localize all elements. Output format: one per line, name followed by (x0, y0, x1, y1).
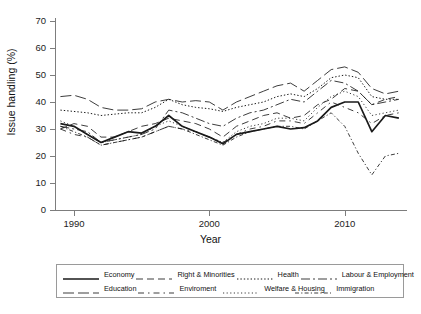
legend-key-swatch (221, 284, 261, 294)
legend-key-swatch (61, 284, 101, 294)
legend-item-economy[interactable]: Economy (61, 268, 134, 282)
series-line-labour-employment (60, 80, 398, 142)
legend-label: Health (275, 271, 299, 279)
legend-label: Enviroment (176, 285, 216, 293)
legend-item-enviroment[interactable]: Enviroment (136, 282, 221, 296)
legend-item-education[interactable]: Education (61, 282, 136, 296)
legend-key-swatch (136, 284, 176, 294)
legend-label: Right & Minorities (174, 271, 234, 279)
legend-key-swatch (293, 284, 333, 294)
legend-item-right-minorities[interactable]: Right & Minorities (134, 268, 234, 282)
series-line-right-minorities (60, 89, 398, 138)
legend-key-swatch (134, 270, 174, 280)
legend-label: Economy (101, 271, 134, 279)
legend-row: EducationEnviromentWelfare & HousingImmi… (61, 282, 399, 296)
chart-plot-lines (0, 0, 421, 250)
legend-item-welfare-housing[interactable]: Welfare & Housing (221, 282, 293, 296)
legend-label: Labour & Employment (339, 271, 414, 279)
legend-item-health[interactable]: Health (235, 268, 299, 282)
series-line-welfare-housing (60, 91, 398, 142)
legend-item-labour-employment[interactable]: Labour & Employment (299, 268, 414, 282)
legend-key-swatch (299, 270, 339, 280)
chart-figure: 706050403020100 199020002010 Year Issue … (0, 0, 421, 314)
legend-key-swatch (235, 270, 275, 280)
legend-item-immigration[interactable]: Immigration (293, 282, 399, 296)
legend-key-swatch (61, 270, 101, 280)
chart-legend: EconomyRight & MinoritiesHealthLabour & … (56, 264, 404, 298)
legend-label: Education (101, 285, 136, 293)
legend-label: Immigration (333, 285, 374, 293)
legend-row: EconomyRight & MinoritiesHealthLabour & … (61, 268, 399, 282)
series-line-education (60, 67, 398, 110)
